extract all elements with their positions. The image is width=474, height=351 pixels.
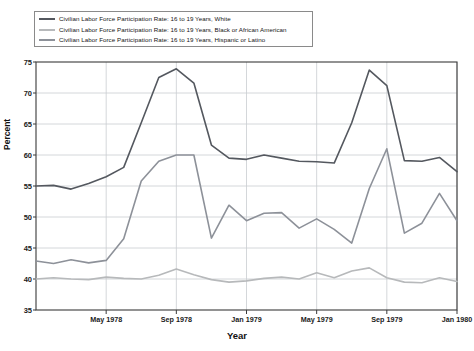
legend-item-black-african-american: Civilian Labor Force Participation Rate:…	[38, 25, 309, 36]
chart-container: Civilian Labor Force Participation Rate:…	[0, 0, 474, 351]
legend-item-hispanic-latino: Civilian Labor Force Participation Rate:…	[38, 35, 309, 46]
legend-label-white: Civilian Labor Force Participation Rate:…	[59, 14, 231, 24]
legend-swatch-hispanic-latino	[39, 39, 55, 41]
legend-swatch-white	[39, 18, 55, 20]
legend-swatch-black-african-american	[39, 29, 55, 31]
chart-legend: Civilian Labor Force Participation Rate:…	[34, 11, 313, 47]
legend-item-white: Civilian Labor Force Participation Rate:…	[38, 14, 309, 25]
legend-label-black-african-american: Civilian Labor Force Participation Rate:…	[59, 25, 287, 35]
legend-label-hispanic-latino: Civilian Labor Force Participation Rate:…	[59, 35, 265, 45]
plot-area	[0, 0, 474, 351]
